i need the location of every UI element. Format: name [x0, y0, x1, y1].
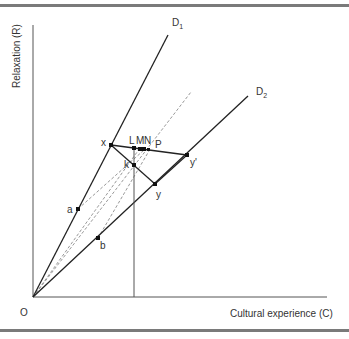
label-b: b	[100, 240, 106, 251]
d1-label: D1	[172, 17, 183, 30]
point-yprime	[185, 153, 189, 157]
label-x: x	[101, 137, 106, 148]
consumption-diagram: Relaxation (R) Cultural experience (C) O…	[0, 0, 349, 339]
ray-d2	[33, 96, 248, 297]
point-m	[138, 147, 142, 151]
points	[76, 143, 189, 240]
d2-label: D2	[256, 86, 267, 99]
point-y	[153, 182, 157, 186]
label-n: N	[144, 135, 151, 146]
label-l: L	[129, 135, 135, 146]
point-k	[132, 163, 136, 167]
point-p	[147, 148, 150, 151]
point-a	[76, 207, 80, 211]
y-axis-label: Relaxation (R)	[11, 24, 22, 88]
origin-label: O	[20, 307, 28, 318]
ray-d1	[33, 35, 168, 297]
dashed-ray-long	[33, 92, 191, 297]
dashed-ray-to-m	[33, 148, 140, 297]
point-n	[142, 147, 146, 151]
label-y: y	[156, 189, 161, 200]
point-x	[109, 143, 113, 147]
label-yprime: y'	[190, 157, 197, 168]
dashed-guides	[33, 92, 191, 297]
point-l	[132, 146, 136, 150]
line-y-yprime	[155, 155, 187, 184]
label-p: P	[155, 139, 162, 150]
label-a: a	[67, 204, 73, 215]
x-axis-label: Cultural experience (C)	[230, 308, 333, 319]
